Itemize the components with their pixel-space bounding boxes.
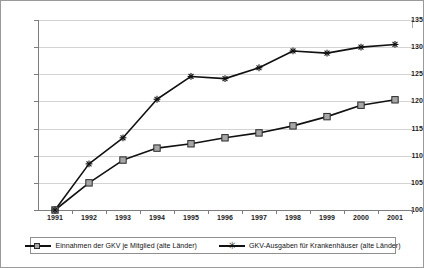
legend-entry-2[interactable]: ✳GKV-Ausgaben für Krankenhäuser (alte Lä…: [219, 241, 401, 250]
y-axis-tick-mark: [34, 129, 38, 130]
gridline: [38, 47, 412, 48]
star-marker-icon: ✳: [219, 241, 245, 250]
y-axis-tick-label: 120: [393, 97, 423, 104]
legend-label: Einnahmen der GKV je Mitglied (alte Länd…: [55, 242, 196, 249]
y-axis-tick-label: 130: [393, 43, 423, 50]
y-axis-tick-label: 135: [393, 16, 423, 23]
y-axis-tick-mark: [34, 20, 38, 21]
gridline: [38, 20, 412, 21]
y-axis-tick-label: 125: [393, 70, 423, 77]
legend-entry-1[interactable]: Einnahmen der GKV je Mitglied (alte Länd…: [25, 241, 196, 250]
x-axis-line: [38, 210, 413, 211]
y-axis-tick-mark: [34, 74, 38, 75]
y-axis-line: [38, 20, 39, 211]
y-axis-tick-label: 110: [393, 152, 423, 159]
x-axis-tick-mark: [412, 210, 413, 214]
gridline: [38, 183, 412, 184]
chart-figure: 100105110115120125130135 199119921993199…: [0, 0, 424, 268]
plot-area: [38, 20, 412, 210]
chart-legend: Einnahmen der GKV je Mitglied (alte Länd…: [30, 237, 396, 254]
y-axis-tick-mark: [34, 210, 38, 211]
gridline: [38, 101, 412, 102]
gridline: [38, 156, 412, 157]
y-axis-tick-mark: [34, 183, 38, 184]
y-axis-tick-label: 115: [393, 125, 423, 132]
gridline: [38, 74, 412, 75]
legend-label: GKV-Ausgaben für Krankenhäuser (alte Län…: [249, 242, 401, 249]
x-axis-tick-label: 2001: [373, 214, 417, 221]
y-axis-tick-mark: [34, 47, 38, 48]
y-axis-tick-label: 105: [393, 179, 423, 186]
square-marker-icon: [25, 241, 51, 250]
y-axis-tick-mark: [34, 101, 38, 102]
y-axis-tick-mark: [34, 156, 38, 157]
y-axis-tick-label: 100: [393, 206, 423, 213]
gridline: [38, 129, 412, 130]
